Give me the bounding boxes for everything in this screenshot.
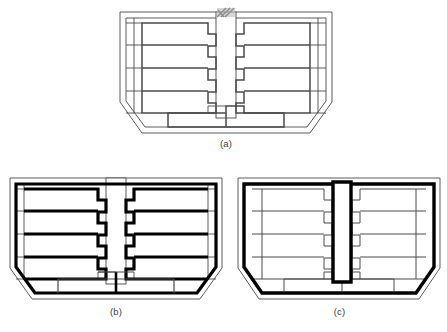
floor-plan-panel-a: (a) — [112, 2, 340, 160]
bottom-block-a — [168, 106, 284, 127]
central-corridor-b — [106, 178, 126, 284]
floor-plan-drawing-a — [112, 2, 340, 142]
panel-a-caption: (a) — [112, 138, 340, 149]
figure-sheet: (a) — [0, 0, 447, 332]
floor-plan-panel-b: (b) — [2, 168, 230, 328]
panel-c-caption: (c) — [232, 306, 447, 317]
right-wing-units-b — [126, 189, 208, 279]
hatch-marker-icon — [216, 8, 236, 17]
left-wing-units-b — [24, 189, 106, 279]
central-corridor-a — [216, 12, 236, 118]
central-corridor-c — [333, 182, 351, 282]
panel-b-caption: (b) — [2, 306, 230, 317]
right-wing-units-a — [236, 23, 310, 113]
floor-plan-panel-c: (c) — [232, 168, 447, 328]
left-wing-units-a — [142, 23, 216, 113]
floor-plan-drawing-b — [2, 168, 230, 310]
floor-plan-drawing-c — [232, 168, 447, 310]
